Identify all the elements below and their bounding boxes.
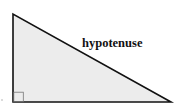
right-triangle-diagram: hypotenuse [0, 0, 182, 110]
stray-mark [1, 99, 3, 101]
triangle-canvas: hypotenuse [0, 0, 182, 110]
hypotenuse-label: hypotenuse [82, 36, 143, 50]
triangle-shape [13, 14, 171, 102]
